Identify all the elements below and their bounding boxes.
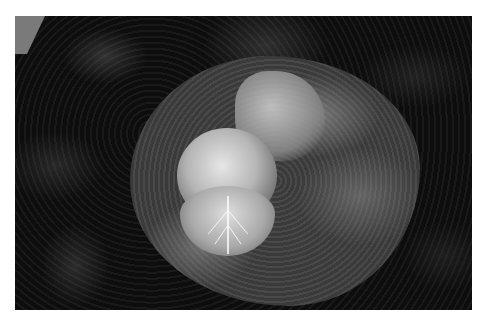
- leaf-vein: [228, 226, 241, 245]
- cabbage-photo: [15, 16, 472, 310]
- leaf-vein: [214, 226, 227, 245]
- leaf-vein: [208, 211, 228, 235]
